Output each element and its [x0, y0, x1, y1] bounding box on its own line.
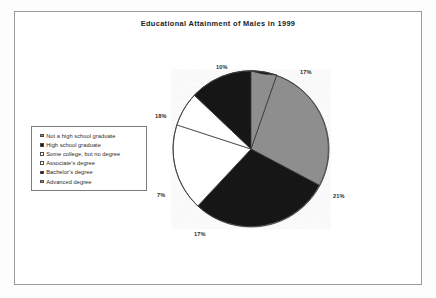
legend-swatch-icon: [40, 134, 44, 138]
pie-value-label: 17%: [194, 231, 206, 237]
legend-swatch-icon: [40, 180, 44, 184]
pie-value-label: 7%: [157, 192, 166, 198]
legend-item-label: Associate's degree: [46, 160, 95, 166]
chart-page: Educational Attainment of Males in 1999: [0, 0, 436, 298]
legend-swatch-icon: [40, 143, 44, 147]
legend-swatch-icon: [40, 161, 44, 165]
legend-swatch-icon: [40, 152, 44, 156]
chart-title: Educational Attainment of Males in 1999: [0, 19, 436, 28]
legend-item: Associate's degree: [36, 159, 143, 168]
pie-value-label: 21%: [333, 193, 345, 199]
legend-swatch-icon: [40, 171, 44, 175]
legend-item-label: Bachelor's degree: [46, 169, 93, 175]
legend-item: Not a high school graduate: [36, 131, 143, 140]
chart-legend: Not a high school graduate High school g…: [31, 126, 147, 191]
legend-item: Bachelor's degree: [36, 168, 143, 177]
legend-item-label: Advanced degree: [46, 179, 91, 185]
legend-item: Some college, but no degree: [36, 149, 143, 158]
pie-value-label: 17%: [300, 69, 312, 75]
pie-svg: [171, 69, 331, 229]
legend-item: Advanced degree: [36, 177, 143, 186]
legend-item-label: High school graduate: [46, 142, 101, 148]
pie-value-label: 10%: [216, 64, 228, 70]
legend-item-label: Not a high school graduate: [46, 133, 115, 139]
legend-item-label: Some college, but no degree: [46, 151, 120, 157]
pie-chart: [171, 69, 331, 229]
legend-item: High school graduate: [36, 140, 143, 149]
pie-value-label: 18%: [155, 113, 167, 119]
